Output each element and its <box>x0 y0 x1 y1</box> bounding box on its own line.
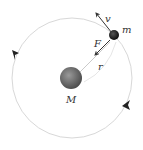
force-label: F <box>93 38 102 49</box>
small-mass-label: m <box>122 24 131 35</box>
small-mass <box>109 30 119 40</box>
orbit-diagram: v m F r M <box>0 0 143 150</box>
central-mass-label: M <box>65 94 77 105</box>
central-mass <box>60 67 82 89</box>
velocity-label: v <box>105 13 111 24</box>
